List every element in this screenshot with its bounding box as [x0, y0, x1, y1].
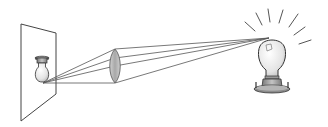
optics-diagram [0, 0, 328, 127]
light-rays [43, 38, 269, 83]
light-bulb [245, 9, 311, 93]
converging-lens [110, 49, 121, 83]
inverted-bulb-image [35, 56, 49, 82]
